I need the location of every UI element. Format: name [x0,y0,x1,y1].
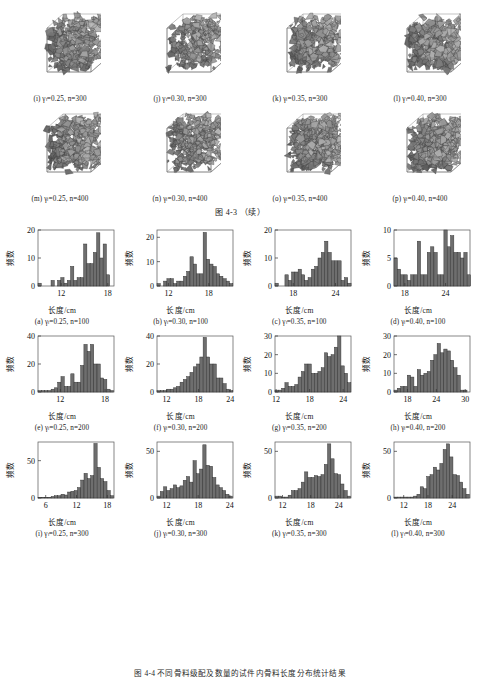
histogram-caption: (j) γₗ=0.30, n=300 [154,529,207,538]
x-axis-title: 长度/cm [48,516,76,527]
x-axis-title: 长度/cm [166,304,194,315]
cube-render-l [379,6,461,90]
histogram-caption: (c) γₗ=0.35, n=100 [272,317,326,326]
svg-text:18: 18 [194,395,202,404]
svg-text:30: 30 [461,395,469,404]
svg-text:20: 20 [264,351,272,360]
cube-caption: (l) γₗ=0.40, n=300 [393,94,446,103]
svg-text:0: 0 [387,388,391,397]
svg-text:0: 0 [387,494,391,503]
histogram-plot-h: 0102030182430频数 [360,326,476,412]
svg-text:30: 30 [264,332,272,341]
cube-render-p [379,106,461,190]
figure-bottom-caption: 图 4-4 不同骨料级配及数量的试件内骨料长度分布统计结果 [0,668,480,677]
cube-panel: (i) γₗ=0.25, n=300 [4,6,116,103]
svg-text:12: 12 [279,501,287,510]
histogram-plot-b: 010201218频数 [123,220,239,306]
histogram-panel: 05101824频数 长度/cm (d) γₗ=0.40, n=100 [360,220,476,326]
svg-text:24: 24 [225,501,233,510]
cube-caption: (m) γₗ=0.25, n=400 [32,194,89,203]
histogram-caption: (g) γₗ=0.35, n=200 [272,423,327,432]
cube-panel: (j) γₗ=0.30, n=300 [124,6,236,103]
svg-text:频数: 频数 [361,250,371,266]
cube-render-o [259,106,341,190]
histogram-caption: (l) γₗ=0.40, n=300 [391,529,444,538]
histogram-panel: 010201218频数 长度/cm (a) γₗ=0.25, n=100 [4,220,120,326]
svg-text:20: 20 [146,360,154,369]
cube-panel-grid: (i) γₗ=0.25, n=300 (j) γₗ=0.30, n=300 (k… [0,0,480,203]
svg-text:24: 24 [432,395,440,404]
svg-text:0: 0 [268,282,272,291]
histogram-row-3: 05061218频数 长度/cm (i) γₗ=0.25, n=300 0501… [0,432,480,538]
svg-text:20: 20 [264,226,272,235]
svg-text:0: 0 [31,388,35,397]
svg-text:0: 0 [150,388,154,397]
histogram-panel: 0102030121824频数 长度/cm (g) γₗ=0.35, n=200 [241,326,357,432]
cube-panel: (l) γₗ=0.40, n=300 [364,6,476,103]
svg-text:12: 12 [56,395,64,404]
svg-text:0: 0 [31,282,35,291]
svg-text:18: 18 [194,501,202,510]
cube-render-j [139,6,221,90]
cube-caption: (j) γₗ=0.30, n=300 [153,94,206,103]
svg-text:0: 0 [268,494,272,503]
svg-text:24: 24 [335,501,343,510]
svg-text:频数: 频数 [5,250,15,266]
svg-text:频数: 频数 [124,462,134,478]
svg-text:频数: 频数 [124,250,134,266]
histogram-plot-a: 010201218频数 [4,220,120,306]
cube-caption: (o) γₗ=0.35, n=400 [273,194,328,203]
svg-text:24: 24 [442,289,450,298]
cube-render-k [259,6,341,90]
histogram-panel: 0102030182430频数 长度/cm (h) γₗ=0.40, n=200 [360,326,476,432]
cube-caption: (i) γₗ=0.25, n=300 [33,94,86,103]
cube-caption: (k) γₗ=0.35, n=300 [273,94,328,103]
svg-text:18: 18 [424,501,432,510]
svg-text:12: 12 [400,501,408,510]
histogram-caption: (k) γₗ=0.35, n=300 [272,529,327,538]
histogram-plot-i: 05061218频数 [4,432,120,518]
svg-text:频数: 频数 [5,356,15,372]
histogram-panel: 010201824频数 长度/cm (c) γₗ=0.35, n=100 [241,220,357,326]
svg-text:24: 24 [332,289,340,298]
svg-text:50: 50 [383,447,391,456]
cube-row-1: (i) γₗ=0.25, n=300 (j) γₗ=0.30, n=300 (k… [0,6,480,103]
cube-render-m [19,106,101,190]
x-axis-title: 长度/cm [48,410,76,421]
svg-text:频数: 频数 [124,356,134,372]
histogram-caption: (h) γₗ=0.40, n=200 [391,423,446,432]
svg-text:12: 12 [272,395,280,404]
cube-render-i [19,6,101,90]
cube-panel: (k) γₗ=0.35, n=300 [244,6,356,103]
figure-middle-caption: 图 4-3 （续） [0,206,480,217]
svg-text:0: 0 [31,494,35,503]
svg-text:18: 18 [104,289,112,298]
histogram-panel: 05061218频数 长度/cm (i) γₗ=0.25, n=300 [4,432,120,538]
svg-text:频数: 频数 [242,356,252,372]
svg-text:30: 30 [383,332,391,341]
svg-text:10: 10 [146,258,154,267]
svg-text:40: 40 [146,332,154,341]
histogram-row-2: 020401218频数 长度/cm (e) γₗ=0.25, n=200 020… [0,326,480,432]
svg-text:12: 12 [164,289,172,298]
svg-text:12: 12 [162,501,170,510]
histogram-caption: (e) γₗ=0.25, n=200 [35,423,89,432]
histogram-caption: (i) γₗ=0.25, n=300 [35,529,88,538]
cube-render-n [139,106,221,190]
x-axis-title: 长度/cm [285,410,313,421]
histogram-plot-g: 0102030121824频数 [241,326,357,412]
histogram-caption: (a) γₗ=0.25, n=100 [35,317,89,326]
svg-text:50: 50 [264,447,272,456]
svg-text:0: 0 [150,282,154,291]
histogram-panel: 02040121824频数 长度/cm (f) γₗ=0.30, n=200 [123,326,239,432]
histogram-panel: 010201218频数 长度/cm (b) γₗ=0.30, n=100 [123,220,239,326]
histogram-caption: (b) γₗ=0.30, n=100 [153,317,208,326]
svg-text:0: 0 [150,494,154,503]
histogram-caption: (f) γₗ=0.30, n=200 [154,423,208,432]
histogram-plot-f: 02040121824频数 [123,326,239,412]
svg-text:18: 18 [101,395,109,404]
histogram-plot-c: 010201824频数 [241,220,357,306]
svg-text:频数: 频数 [361,462,371,478]
cube-panel: (n) γₗ=0.30, n=400 [124,106,236,203]
svg-text:50: 50 [27,457,35,466]
